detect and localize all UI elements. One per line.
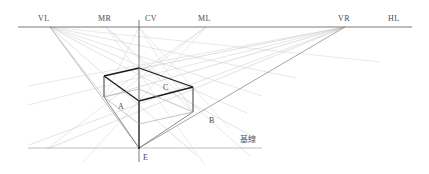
ray-vr-2 — [28, 27, 345, 105]
label-vl: VL — [38, 14, 49, 23]
ray-vl-to-box — [50, 27, 104, 97]
box-bottom-edge-front-right — [139, 112, 193, 124]
label-baseline-cjk: 基線 — [240, 134, 256, 144]
ray-vl-to-station — [50, 27, 139, 148]
construction-ray-fan-left — [50, 27, 380, 155]
label-vr: VR — [338, 14, 350, 23]
station-point-marker — [138, 147, 140, 149]
ground-edge-right — [139, 112, 193, 148]
ray-vl-4 — [50, 27, 247, 113]
ray-vr-1 — [28, 27, 345, 86]
perspective-diagram: VL MR CV ML VR HL A B C E 基線 — [0, 0, 429, 174]
label-hl: HL — [388, 14, 399, 23]
ray-ml-3 — [83, 27, 206, 162]
ray-vr-to-station — [139, 27, 345, 148]
label-cv: CV — [145, 14, 157, 23]
ray-vr-3 — [29, 27, 345, 145]
label-a: A — [118, 102, 124, 111]
ray-cv-1 — [104, 27, 139, 97]
label-mr: MR — [98, 14, 112, 23]
label-ml: ML — [198, 14, 211, 23]
measuring-ray-fan — [47, 27, 250, 165]
construction-ray-fan-right — [28, 27, 345, 149]
diagram-canvas: VL MR CV ML VR HL A B C E 基線 — [0, 0, 429, 174]
label-e: E — [143, 153, 148, 162]
label-b: B — [209, 116, 215, 125]
box-bottom-edge-back-left — [104, 89, 139, 97]
label-c: C — [163, 83, 169, 92]
ray-vl-5 — [50, 27, 250, 135]
ray-vr-to-box-bot — [104, 27, 345, 97]
